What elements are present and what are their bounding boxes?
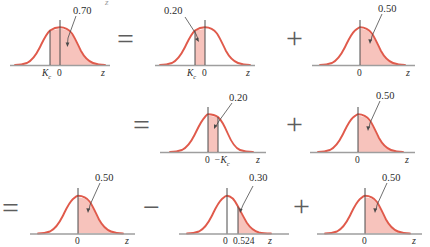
curve-2-2-tick-zero: 0 [355, 156, 360, 166]
curve-1-2: 0.20 Kc 0 z [155, 8, 255, 70]
curve-3-2-tick-0524: 0.524 [233, 237, 254, 247]
curve-1-1-tick-kc-sub: c [48, 73, 51, 80]
operator-minus-row3: − [143, 192, 160, 222]
operator-plus-row3: + [293, 191, 310, 221]
equation-row-2: = 0.20 0 −Kc z + [0, 85, 430, 170]
curve-1-3-shaded-area [360, 29, 405, 65]
curve-3-1-plot [38, 178, 138, 238]
curve-3-2-axis-label: z [268, 236, 272, 246]
curve-3-1-area-label: 0.50 [95, 173, 113, 184]
curve-1-1-axis-label: z [101, 68, 105, 78]
curve-1-3: 0.50 0 z [320, 8, 420, 70]
curve-2-1-tick-negkc-sub: c [227, 160, 230, 167]
curve-3-2-leader-line [241, 186, 253, 210]
curve-3-3-tick-zero: 0 [362, 237, 367, 247]
curve-2-1-plot [168, 95, 268, 157]
operator-equals-row2: = [133, 110, 150, 140]
curve-1-2-tick-kc: Kc [187, 69, 196, 80]
curve-2-1-tick-negkc-base: −K [214, 155, 227, 165]
curve-3-3-area-label: 0.50 [382, 173, 400, 184]
curve-3-3-axis-label: z [412, 236, 416, 246]
curve-1-2-axis-label: z [246, 68, 250, 78]
curve-3-3-shaded-area [365, 198, 410, 234]
curve-1-1-tick-zero: 0 [57, 69, 62, 79]
curve-2-1-tick-negkc: −Kc [214, 156, 230, 167]
curve-2-1-shaded-area [208, 116, 218, 152]
curve-2-2-area-label: 0.50 [376, 91, 394, 102]
operator-equals-row1: = [117, 24, 134, 54]
curve-1-1-shaded-area [50, 29, 105, 65]
curve-2-1-area-label: 0.20 [229, 93, 247, 104]
curve-3-1-shaded-area [78, 198, 123, 234]
curve-1-3-tick-zero: 0 [357, 69, 362, 79]
curve-2-2: 0.50 0 z [318, 95, 418, 157]
equation-row-3: = 0.50 0 z − [0, 170, 430, 247]
curve-1-2-plot [155, 8, 255, 70]
curve-3-2: 0.30 0 0.524 z [185, 178, 295, 238]
curve-3-3: 0.50 0 z [325, 178, 425, 238]
curve-1-3-plot [320, 8, 420, 70]
curve-1-2-tick-zero: 0 [202, 69, 207, 79]
operator-plus-row2: + [286, 109, 303, 139]
curve-3-2-tick-zero: 0 [223, 237, 228, 247]
operator-equals-row3: = [2, 193, 19, 223]
curve-3-1: 0.50 0 z [38, 178, 138, 238]
curve-3-3-plot [325, 178, 425, 238]
curve-3-1-tick-zero: 0 [75, 237, 80, 247]
curve-1-2-area-label: 0.20 [164, 6, 182, 17]
curve-1-1: 0.70 Kc 0 z [10, 8, 110, 70]
curve-2-1-axis-label: z [256, 155, 260, 165]
curve-1-3-axis-label: z [406, 68, 410, 78]
curve-1-2-tick-kc-sub: c [193, 73, 196, 80]
operator-plus-row1: + [286, 23, 303, 53]
curve-1-1-plot [10, 8, 110, 70]
curve-2-2-axis-label: z [405, 155, 409, 165]
curve-2-1-leader-line [216, 103, 232, 126]
equation-row-1: 0.70 Kc 0 z = 0.20 Kc 0 z + [0, 0, 430, 85]
curve-3-1-axis-label: z [125, 236, 129, 246]
curve-1-1-tick-kc: Kc [42, 69, 51, 80]
curve-3-2-area-label: 0.30 [249, 173, 267, 184]
curve-3-2-plot [185, 178, 295, 238]
curve-2-1-tick-zero: 0 [205, 156, 210, 166]
curve-2-2-plot [318, 95, 418, 157]
curve-2-2-shaded-area [358, 116, 403, 152]
curve-1-1-area-label: 0.70 [73, 6, 91, 17]
curve-3-2-density-curve [187, 196, 271, 234]
curve-1-3-area-label: 0.50 [378, 4, 396, 15]
normal-curve-decomposition-figure: z 0.70 Kc 0 z = [0, 0, 430, 247]
curve-2-1: 0.20 0 −Kc z [168, 95, 268, 157]
